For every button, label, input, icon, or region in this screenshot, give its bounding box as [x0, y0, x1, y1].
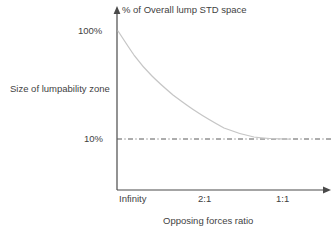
x-axis-tick-label-1to1: 1:1 — [276, 194, 289, 204]
x-axis-tick-label-2to1: 2:1 — [198, 194, 211, 204]
y-axis-tick-label-100: 100% — [78, 26, 102, 36]
lumpability-zone-curve — [118, 31, 290, 139]
x-axis-title: Opposing forces ratio — [163, 216, 253, 226]
chart-figure: % of Overall lump STD space Size of lump… — [0, 0, 335, 236]
x-axis-arrowhead — [323, 187, 331, 194]
x-axis-tick-label-infinity: Infinity — [119, 194, 146, 204]
y-axis-tick-label-10: 10% — [84, 134, 103, 144]
y-axis-description: Size of lumpability zone — [10, 84, 110, 94]
y-axis-title: % of Overall lump STD space — [122, 5, 247, 15]
y-axis-arrowhead — [114, 6, 121, 14]
